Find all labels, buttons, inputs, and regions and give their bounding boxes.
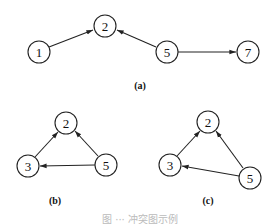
svg-text:2: 2 bbox=[102, 19, 109, 34]
node-2: 2 bbox=[197, 111, 219, 133]
panel-b: 2 3 5 (b) bbox=[17, 112, 117, 207]
node-3: 3 bbox=[159, 154, 181, 176]
edge-5-to-2 bbox=[117, 30, 156, 47]
svg-text:2: 2 bbox=[205, 115, 212, 130]
node-5: 5 bbox=[239, 167, 261, 189]
panel-a: 1 2 5 7 (a) bbox=[28, 15, 259, 92]
svg-text:7: 7 bbox=[245, 45, 252, 60]
edge-3-to-2 bbox=[35, 132, 58, 157]
svg-text:1: 1 bbox=[36, 45, 43, 60]
node-5: 5 bbox=[95, 154, 117, 176]
svg-text:5: 5 bbox=[247, 171, 254, 186]
edge-5-to-2 bbox=[216, 131, 243, 168]
panel-label-a: (a) bbox=[134, 80, 146, 92]
node-7: 7 bbox=[237, 41, 259, 63]
svg-text:5: 5 bbox=[164, 45, 171, 60]
edge-5-to-3 bbox=[182, 166, 239, 176]
edge-1-to-2 bbox=[49, 30, 93, 47]
figure-caption: 图 ··· 冲突图示例 bbox=[102, 213, 178, 224]
panel-label-b: (b) bbox=[49, 195, 61, 207]
svg-text:5: 5 bbox=[103, 158, 110, 173]
node-3: 3 bbox=[17, 155, 39, 177]
edge-5-to-3 bbox=[40, 165, 95, 166]
panel-label-c: (c) bbox=[202, 195, 213, 207]
node-2: 2 bbox=[55, 112, 77, 134]
svg-text:3: 3 bbox=[25, 159, 32, 174]
node-2: 2 bbox=[94, 15, 116, 37]
svg-text:3: 3 bbox=[167, 158, 174, 173]
svg-text:2: 2 bbox=[63, 116, 70, 131]
edge-3-to-2 bbox=[177, 131, 200, 156]
node-1: 1 bbox=[28, 41, 50, 63]
node-5: 5 bbox=[156, 41, 178, 63]
edge-5-to-2 bbox=[75, 131, 98, 156]
graph-figure: 1 2 5 7 (a) 2 3 5 (b) bbox=[0, 0, 280, 224]
panel-c: 2 3 5 (c) bbox=[159, 111, 261, 207]
